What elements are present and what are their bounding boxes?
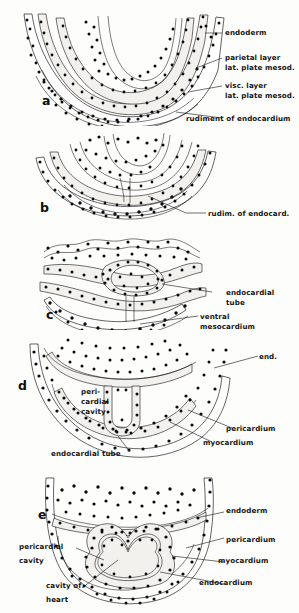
label-a-endoderm: endoderm [225,28,267,37]
label-d-pericardial-cavity-line1: peri- [81,387,100,396]
figure-canvas: a b c d e endoderm parietal layer lat. p… [0,0,299,613]
label-c-endocardial-tube-line2: tube [226,298,245,307]
label-c-ventral-mesocardium-line1: ventral [200,312,229,321]
panel-b-drawing [36,133,216,219]
label-c-ventral-mesocardium-line2: mesocardium [200,322,255,331]
panel-a-drawing [24,14,224,129]
label-e-endocardium: endocardium [199,578,253,587]
label-e-endoderm: endoderm [226,506,268,515]
label-e-myocardium: myocardium [218,556,269,565]
label-a-visceral-layer: visc. layer [225,81,267,90]
label-c-endocardial-tube-line1: endocardial [226,288,274,297]
label-e-pericardium: pericardium [226,535,276,544]
label-d-end: end. [259,352,277,361]
label-d-myocardium: myocardium [203,438,254,447]
label-b-rudim-endocard: rudim. of endocard. [208,209,289,218]
label-d-endocardial-tube: endocardial tube [51,449,121,458]
panel-letter-c: c [46,307,53,322]
panel-d-drawing [30,339,230,458]
label-e-cavity-of-heart-line2: heart [46,595,68,604]
label-e-pericardial-cavity-line1: pericardial [19,542,63,551]
label-a-parietal-mesoderm: lat. plate mesod. [225,63,295,72]
panel-letter-b: b [40,200,49,215]
panel-letter-a: a [42,93,50,108]
label-e-pericardial-cavity-line2: cavity [19,556,44,565]
label-a-rudiment-endocardium: rudiment of endocardium [186,114,291,123]
label-d-pericardium: pericardium [226,424,276,433]
panel-letter-d: d [18,378,27,393]
label-a-parietal-layer: parietal layer [225,53,280,62]
label-e-cavity-of-heart-line1: cavity of [46,581,82,590]
label-a-visceral-mesoderm: lat. plate mesod. [225,91,295,100]
label-d-pericardial-cavity-line2: cardial [81,397,109,406]
panel-c-drawing [40,239,206,338]
label-d-pericardial-cavity-line3: cavity [81,407,106,416]
panel-letter-e: e [38,507,46,522]
